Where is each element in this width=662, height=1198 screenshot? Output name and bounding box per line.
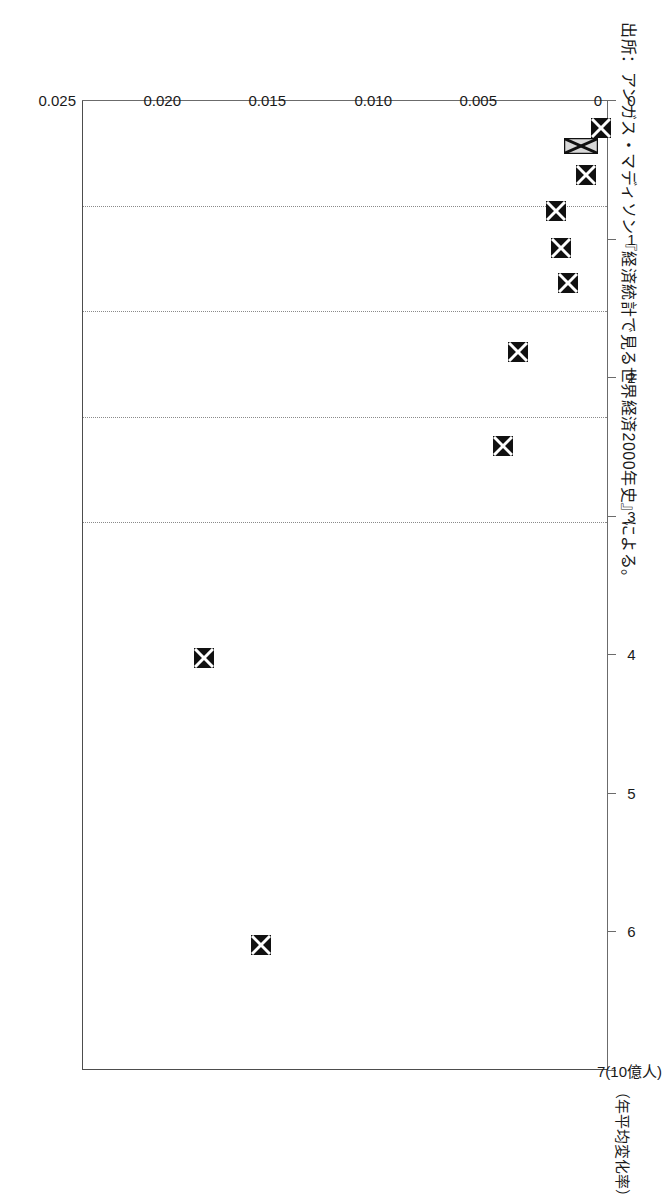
y-axis-title: （年平均変化率） xyxy=(613,1084,634,1198)
tick-population-3 xyxy=(608,516,616,517)
tick-population-5 xyxy=(608,793,616,794)
tick-label-rate-0.015: 0.015 xyxy=(249,92,293,109)
tick-label-population-7: 7(10億人) xyxy=(597,1060,662,1081)
tick-population-2 xyxy=(608,377,616,378)
data-point-marker xyxy=(591,118,611,138)
data-point-marker xyxy=(576,165,596,185)
data-point-marker xyxy=(508,342,528,362)
data-point-marker xyxy=(546,201,566,221)
data-point-marker xyxy=(251,935,271,955)
tick-population-0 xyxy=(608,100,616,101)
gridline-rate-0.015 xyxy=(83,417,607,418)
tick-label-rate-0.025: 0.025 xyxy=(38,92,82,109)
source-note: 出所：アンガス・マディソン『経済統計で見る世界経済2000年史』による。 xyxy=(618,22,642,586)
data-point-marker xyxy=(194,648,214,668)
gridline-rate-0.010 xyxy=(83,311,607,312)
tick-population-4 xyxy=(608,654,616,655)
tick-label-rate-0.005: 0.005 xyxy=(459,92,503,109)
plot-area xyxy=(82,100,608,1070)
data-point-marker xyxy=(493,436,513,456)
tick-label-rate-0: 0 xyxy=(594,92,608,109)
tick-population-1 xyxy=(608,239,616,240)
gridline-rate-0.020 xyxy=(83,522,607,523)
tick-label-population-4: 4 xyxy=(627,646,635,663)
tick-population-6 xyxy=(608,931,616,932)
data-point-marker xyxy=(558,273,578,293)
tick-label-population-5: 5 xyxy=(627,784,635,801)
gridline-rate-0.005 xyxy=(83,206,607,207)
tick-label-population-6: 6 xyxy=(627,923,635,940)
data-point-marker xyxy=(551,238,571,258)
data-point-marker xyxy=(564,138,598,154)
population-axis-line xyxy=(607,100,608,1070)
tick-label-rate-0.020: 0.020 xyxy=(144,92,188,109)
tick-label-rate-0.010: 0.010 xyxy=(354,92,398,109)
